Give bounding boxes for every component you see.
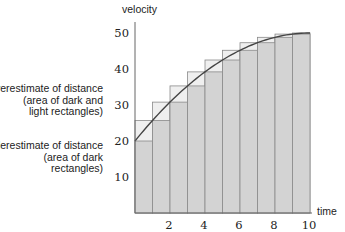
annotation-line: Underestimate of distance bbox=[0, 140, 103, 152]
overestimate-annotation: Overestimate of distance (area of dark a… bbox=[0, 83, 103, 118]
x-tick-label: 8 bbox=[270, 218, 277, 232]
x-tick-labels: 246810 bbox=[165, 218, 316, 232]
x-tick-label: 10 bbox=[302, 218, 317, 232]
annotation-line: light rectangles) bbox=[0, 106, 103, 118]
underestimate-rectangle bbox=[258, 43, 276, 213]
underestimate-rectangle bbox=[135, 141, 153, 213]
y-tick-label: 30 bbox=[114, 98, 129, 112]
x-tick-label: 6 bbox=[235, 218, 242, 232]
y-tick-label: 50 bbox=[114, 26, 129, 40]
underestimate-rectangle bbox=[240, 50, 258, 213]
underestimate-rectangle bbox=[153, 120, 171, 213]
annotation-line: Overestimate of distance bbox=[0, 83, 103, 95]
underestimate-rectangle bbox=[188, 86, 206, 213]
underestimate-rectangle bbox=[293, 34, 311, 213]
underestimate-rectangle bbox=[205, 72, 223, 213]
underestimate-rectangle bbox=[275, 37, 293, 213]
underestimate-rectangle bbox=[223, 60, 241, 213]
y-tick-label: 10 bbox=[114, 170, 129, 184]
x-tick-label: 2 bbox=[165, 218, 172, 232]
y-tick-label: 20 bbox=[114, 134, 129, 148]
y-tick-labels: 1020304050 bbox=[114, 26, 129, 184]
annotation-line: rectangles) bbox=[0, 163, 103, 175]
x-axis-label: time bbox=[317, 205, 337, 217]
underestimate-rectangles bbox=[135, 34, 310, 213]
y-axis-label: velocity bbox=[122, 3, 158, 15]
underestimate-annotation: Underestimate of distance (area of dark … bbox=[0, 140, 103, 175]
y-tick-label: 40 bbox=[114, 62, 129, 76]
underestimate-rectangle bbox=[170, 102, 188, 213]
x-tick-label: 4 bbox=[200, 218, 207, 232]
